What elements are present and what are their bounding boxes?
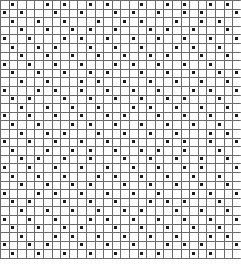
grid-figure-container: Binary Lattice Occupancy Grid Dense rect… — [0, 0, 241, 266]
lattice-grid-canvas — [0, 0, 241, 266]
